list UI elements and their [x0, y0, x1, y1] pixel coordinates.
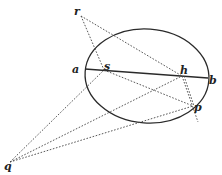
- label-s: s: [104, 60, 110, 73]
- line-h-p-second: [184, 76, 194, 106]
- ellipse-curve: [82, 25, 212, 127]
- label-h: h: [180, 64, 188, 77]
- label-a: a: [72, 63, 79, 76]
- label-r: r: [74, 5, 81, 18]
- line-r-h: [81, 16, 182, 76]
- ellipse-construction-diagram: r a s h b p q: [0, 0, 222, 175]
- line-q-h: [10, 76, 182, 162]
- line-q-p: [10, 106, 193, 162]
- label-q: q: [4, 160, 12, 173]
- label-p: p: [194, 101, 202, 114]
- line-q-s: [10, 70, 104, 162]
- label-b: b: [209, 74, 217, 87]
